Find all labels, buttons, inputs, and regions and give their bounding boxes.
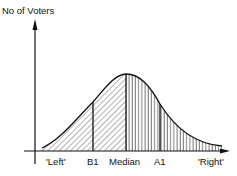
- left-hatched-area: [42, 60, 126, 152]
- x-label-left: 'Left': [46, 157, 65, 167]
- x-label-a1: A1: [154, 157, 166, 167]
- y-axis-label: No of Voters: [2, 6, 54, 16]
- x-label-median: Median: [109, 157, 140, 167]
- x-axis-arrow-icon: [220, 149, 230, 154]
- x-label-right: 'Right': [198, 157, 224, 167]
- y-axis-arrow-icon: [33, 19, 38, 30]
- right-hatched-area: [126, 60, 222, 152]
- voter-distribution-diagram: [0, 0, 237, 176]
- x-label-b1: B1: [87, 157, 99, 167]
